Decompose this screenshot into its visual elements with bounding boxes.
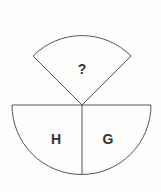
top-sector-label: ? (78, 61, 87, 77)
left-quadrant-label: H (51, 131, 61, 147)
right-quadrant-label: G (103, 131, 114, 147)
puzzle-diagram: ? H G (0, 0, 161, 192)
